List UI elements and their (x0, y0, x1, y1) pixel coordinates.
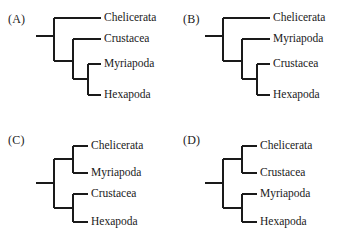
panel-c: (C) Chelicerata Myriapoda Crustacea Hexa… (0, 121, 174, 242)
tip-label: Hexapoda (260, 216, 307, 228)
tip-label: Myriapoda (260, 188, 310, 200)
tip-label: Chelicerata (260, 140, 312, 152)
tip-label: Chelicerata (91, 140, 143, 152)
tip-label: Myriapoda (273, 33, 323, 45)
panel-a: (A) Chelicerata Crustacea Myriapoda Hexa… (0, 0, 174, 121)
panel-b-tip-labels: Chelicerata Myriapoda Crustacea Hexapoda (175, 0, 349, 121)
tip-label: Myriapoda (91, 167, 141, 179)
tip-label: Crustacea (104, 33, 149, 45)
tip-label: Hexapoda (91, 216, 138, 228)
tip-label: Crustacea (91, 188, 136, 200)
panel-b: (B) Chelicerata Myriapoda Crustacea Hexa… (175, 0, 349, 121)
panel-a-tip-labels: Chelicerata Crustacea Myriapoda Hexapoda (0, 0, 174, 121)
tip-label: Crustacea (260, 167, 305, 179)
tip-label: Crustacea (273, 58, 318, 70)
tip-label: Chelicerata (273, 12, 325, 24)
phylogenetic-tree-figure: (A) Chelicerata Crustacea Myriapoda Hexa… (0, 0, 349, 242)
tip-label: Hexapoda (104, 89, 151, 101)
tip-label: Myriapoda (104, 58, 154, 70)
panel-d-tip-labels: Chelicerata Crustacea Myriapoda Hexapoda (175, 121, 349, 242)
tip-label: Chelicerata (104, 12, 156, 24)
panel-c-tip-labels: Chelicerata Myriapoda Crustacea Hexapoda (0, 121, 174, 242)
panel-d: (D) Chelicerata Crustacea Myriapoda Hexa… (175, 121, 349, 242)
tip-label: Hexapoda (273, 89, 320, 101)
